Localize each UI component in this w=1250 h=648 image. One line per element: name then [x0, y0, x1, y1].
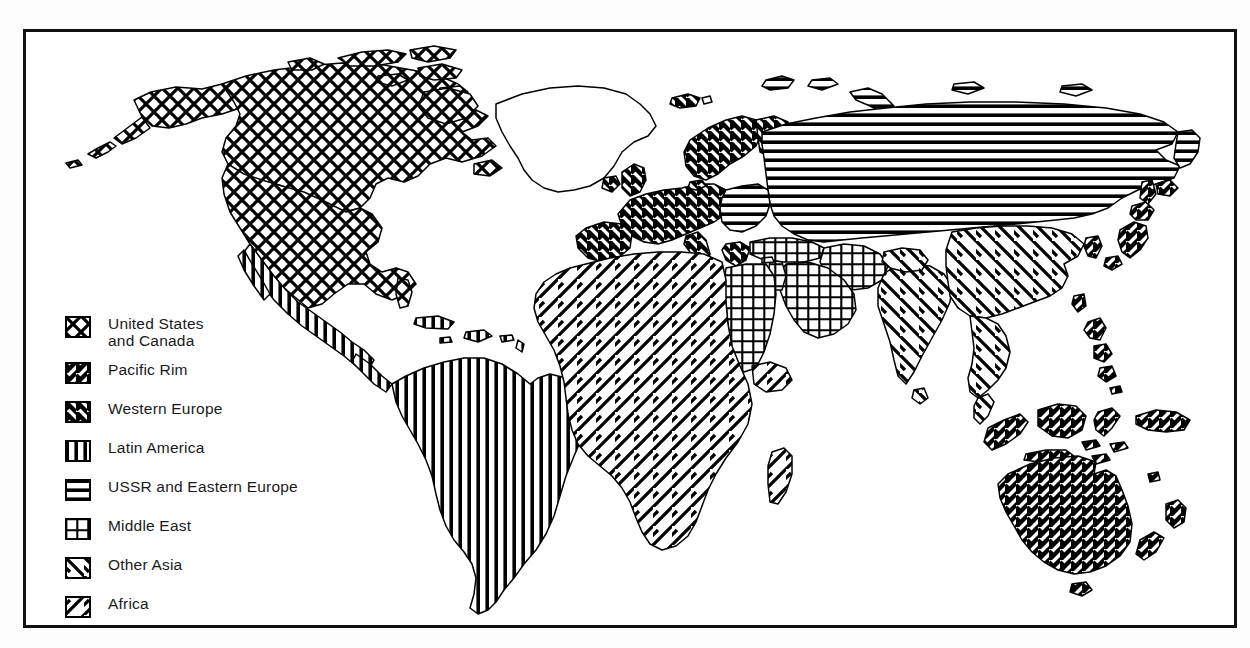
- legend-label-other-asia: Other Asia: [108, 554, 182, 573]
- swatch-pacific-rim: [65, 362, 91, 384]
- legend-label-africa: Africa: [108, 593, 149, 612]
- map-legend: United States and Canada Pacific Rim Wes…: [65, 313, 365, 632]
- swatch-africa: [65, 596, 91, 618]
- legend-label-ussr-eastern-europe: USSR and Eastern Europe: [108, 476, 298, 495]
- legend-label-latin-america: Latin America: [108, 437, 205, 456]
- legend-item-ussr-eastern-europe: USSR and Eastern Europe: [65, 476, 365, 506]
- swatch-ussr-eastern-europe: [65, 479, 91, 501]
- legend-item-other-asia: Other Asia: [65, 554, 365, 584]
- region-jamaica: [440, 337, 452, 343]
- swatch-other-asia: [65, 557, 91, 579]
- legend-label-western-europe: Western Europe: [108, 398, 223, 417]
- legend-label-pacific-rim: Pacific Rim: [108, 359, 188, 378]
- region-cyprus: [762, 257, 774, 263]
- legend-label-middle-east: Middle East: [108, 515, 191, 534]
- region-pacific-isl: [1110, 386, 1122, 394]
- legend-item-western-europe: Western Europe: [65, 398, 365, 428]
- legend-label-us-canada: United States and Canada: [108, 313, 204, 349]
- legend-item-africa: Africa: [65, 593, 365, 623]
- legend-item-us-canada: United States and Canada: [65, 313, 365, 353]
- swatch-western-europe: [65, 401, 91, 423]
- swatch-us-canada: [65, 316, 91, 338]
- region-pr: [500, 335, 514, 342]
- legend-item-middle-east: Middle East: [65, 515, 365, 545]
- region-iceland-2: [702, 96, 712, 104]
- legend-item-pacific-rim: Pacific Rim: [65, 359, 365, 389]
- swatch-latin-america: [65, 440, 91, 462]
- swatch-middle-east: [65, 518, 91, 540]
- region-fiji: [1148, 472, 1160, 482]
- map-frame: United States and Canada Pacific Rim Wes…: [23, 29, 1237, 628]
- legend-item-latin-america: Latin America: [65, 437, 365, 467]
- world-map-figure: United States and Canada Pacific Rim Wes…: [0, 0, 1250, 648]
